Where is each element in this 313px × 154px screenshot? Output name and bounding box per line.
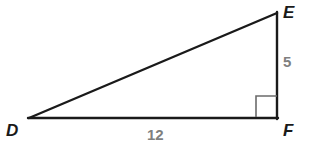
vertex-label-E: E (283, 4, 294, 21)
geometry-figure: D E F 12 5 (0, 0, 313, 154)
side-DE-hypotenuse-line (29, 13, 277, 118)
vertex-label-F: F (283, 122, 293, 139)
right-angle-marker-icon (256, 96, 277, 117)
vertex-label-D: D (6, 122, 18, 139)
side-length-label-EF: 5 (283, 54, 291, 69)
side-length-label-DF: 12 (147, 127, 164, 142)
